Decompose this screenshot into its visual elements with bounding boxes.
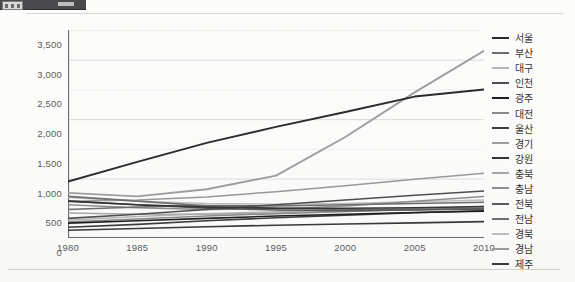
legend-item-label: 충남: [515, 181, 533, 196]
legend-color-swatch: [492, 52, 509, 54]
legend-color-swatch: [492, 203, 509, 205]
y-axis-tick-label: 3,000: [37, 68, 62, 79]
legend-item[interactable]: 전북: [492, 196, 572, 211]
legend-item[interactable]: 경남: [492, 241, 572, 256]
y-axis-labels: 05001,0001,5002,0002,5003,0003,500: [0, 30, 62, 238]
legend-color-swatch: [492, 218, 509, 220]
page-rule-top: [26, 13, 563, 14]
legend-item-label: 전남: [515, 211, 533, 226]
x-axis-tick-label: 2000: [334, 242, 356, 253]
legend-item-label: 경북: [515, 226, 533, 241]
line-chart: 05001,0001,5002,0002,5003,0003,500 19801…: [0, 16, 575, 266]
legend-color-swatch: [492, 157, 509, 159]
y-axis-tick-label: 500: [46, 217, 62, 228]
x-axis-tick-label: 1990: [196, 242, 218, 253]
legend-color-swatch: [492, 112, 509, 114]
legend-item-label: 울산: [515, 121, 533, 136]
legend-item-label: 대전: [515, 106, 533, 121]
plot-area: [68, 30, 484, 238]
legend-color-swatch: [492, 127, 509, 129]
legend-item-label: 광주: [515, 90, 533, 105]
toolbar-grid-icon: [2, 1, 23, 10]
legend-item[interactable]: 인천: [492, 75, 572, 90]
legend-item[interactable]: 충남: [492, 181, 572, 196]
y-axis-tick-label: 3,500: [37, 39, 62, 50]
legend-color-swatch: [492, 67, 509, 69]
legend-item-label: 전북: [515, 196, 533, 211]
legend-color-swatch: [492, 172, 509, 174]
series-line: [68, 222, 484, 231]
legend-color-swatch: [492, 187, 509, 189]
series-line: [68, 51, 484, 197]
plot-svg: [68, 30, 484, 238]
toolbar-field: [58, 2, 74, 6]
legend-color-swatch: [492, 248, 509, 250]
page-rule-bottom: [8, 269, 560, 270]
legend-color-swatch: [492, 142, 509, 144]
legend-item[interactable]: 대전: [492, 105, 572, 120]
x-axis-tick-label: 2005: [404, 242, 426, 253]
x-axis-tick-label: 1980: [57, 242, 79, 253]
legend-item-label: 인천: [515, 75, 533, 90]
legend-item-label: 서울: [515, 30, 533, 45]
cropped-toolbar-strip: [0, 0, 86, 10]
legend-item[interactable]: 대구: [492, 60, 572, 75]
y-axis-tick-label: 1,000: [37, 187, 62, 198]
y-axis-tick-label: 1,500: [37, 157, 62, 168]
legend-item-label: 부산: [515, 45, 533, 60]
x-axis-labels: 1980198519901995200020052010: [68, 242, 484, 258]
legend-item-label: 경남: [515, 241, 533, 256]
legend-item[interactable]: 부산: [492, 45, 572, 60]
y-axis-tick-label: 2,500: [37, 98, 62, 109]
legend-color-swatch: [492, 37, 509, 39]
y-axis-tick-label: 2,000: [37, 128, 62, 139]
legend-item[interactable]: 울산: [492, 121, 572, 136]
x-axis-tick-label: 1995: [265, 242, 287, 253]
series-line: [68, 89, 484, 181]
legend-item[interactable]: 서울: [492, 30, 572, 45]
legend-color-swatch: [492, 233, 509, 235]
chart-legend: 서울부산대구인천광주대전울산경기강원충북충남전북전남경북경남제주: [492, 30, 572, 272]
legend-item[interactable]: 경북: [492, 226, 572, 241]
legend-color-swatch: [492, 82, 509, 84]
legend-item[interactable]: 강원: [492, 151, 572, 166]
legend-color-swatch: [492, 97, 509, 99]
legend-item-label: 대구: [515, 60, 533, 75]
x-axis-tick-label: 1985: [126, 242, 148, 253]
legend-item-label: 강원: [515, 151, 533, 166]
legend-item[interactable]: 전남: [492, 211, 572, 226]
legend-item[interactable]: 광주: [492, 90, 572, 105]
legend-color-swatch: [492, 263, 509, 265]
legend-item-label: 경기: [515, 136, 533, 151]
legend-item[interactable]: 충북: [492, 166, 572, 181]
legend-item-label: 충북: [515, 166, 533, 181]
legend-item[interactable]: 경기: [492, 136, 572, 151]
